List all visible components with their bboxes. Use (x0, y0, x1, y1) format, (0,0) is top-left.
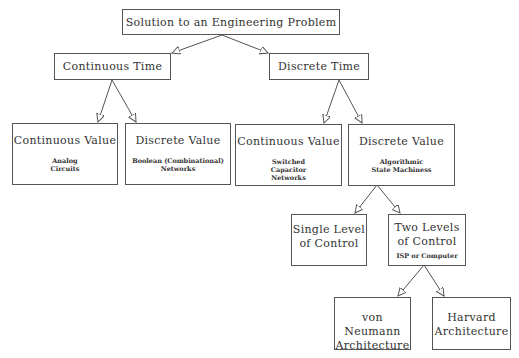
node-dt-continuous-value: Continuous Value Switched Capacitor Netw… (235, 124, 342, 186)
node-two-levels-control: Two Levels of Control ISP or Computer (388, 214, 466, 266)
node-title: Discrete Value (349, 135, 454, 149)
node-von-neumann: von Neumann Architecture (334, 297, 411, 350)
node-title: Continuous Value (236, 135, 341, 149)
node-sub-line: Circuits (13, 165, 117, 173)
node-sub-line: Switched (236, 158, 341, 166)
node-discrete-time-title: Discrete Time (270, 60, 368, 74)
node-sub-line: Analog (13, 157, 117, 165)
node-sub-line: Boolean (Combinational) (126, 157, 230, 165)
node-title-line: of Control (292, 237, 366, 251)
node-title-line: Harvard (433, 311, 510, 325)
node-title-line: Architecture (335, 339, 410, 353)
node-harvard: Harvard Architecture (432, 297, 511, 350)
node-title-line: Single Level (292, 223, 366, 237)
node-dt-discrete-value: Discrete Value Algorithmic State Machine… (348, 124, 455, 186)
node-title-line: Architecture (433, 325, 510, 339)
node-single-level-control: Single Level of Control (291, 214, 367, 266)
node-title-line: of Control (389, 235, 465, 249)
node-title-line: Two Levels (389, 221, 465, 235)
node-sub-line: Algorithmic (349, 158, 454, 166)
node-continuous-time-title: Continuous Time (55, 60, 170, 74)
node-sub-line: Capacitor (236, 166, 341, 174)
node-title: Continuous Value (13, 134, 117, 148)
node-title: Discrete Value (126, 134, 230, 148)
node-title-line: von Neumann (335, 311, 410, 339)
node-ct-discrete-value: Discrete Value Boolean (Combinational) N… (125, 123, 231, 185)
node-sub-line: State Machiness (349, 166, 454, 174)
node-sub-line: ISP or Computer (389, 252, 465, 260)
node-root: Solution to an Engineering Problem (122, 9, 340, 35)
node-sub-line: Networks (126, 165, 230, 173)
node-continuous-time: Continuous Time (54, 53, 171, 80)
node-sub-line: Networks (236, 174, 341, 182)
node-discrete-time: Discrete Time (269, 53, 369, 80)
node-ct-continuous-value: Continuous Value Analog Circuits (12, 123, 118, 185)
node-root-title: Solution to an Engineering Problem (123, 16, 339, 30)
